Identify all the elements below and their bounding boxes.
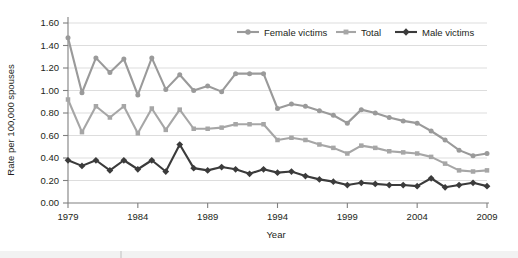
data-point <box>135 93 140 98</box>
data-point <box>80 130 85 135</box>
data-point <box>245 29 250 34</box>
data-point <box>191 88 196 93</box>
data-point <box>471 153 476 158</box>
data-point <box>121 57 126 62</box>
data-point <box>94 104 99 109</box>
legend-label: Total <box>361 27 381 38</box>
data-point <box>177 72 182 77</box>
data-point <box>122 104 127 109</box>
data-point <box>359 143 364 148</box>
footer-band-tick <box>120 251 122 258</box>
data-point <box>359 107 364 112</box>
data-point <box>79 90 84 95</box>
y-axis-tick-label: 0.00 <box>41 197 60 208</box>
data-point <box>457 148 462 153</box>
data-point <box>429 155 434 160</box>
y-axis-tick-label: 0.60 <box>41 130 60 141</box>
y-axis-tick-label: 0.80 <box>41 107 60 118</box>
data-point <box>164 128 169 133</box>
data-point <box>344 30 349 35</box>
data-point <box>443 138 448 143</box>
data-point <box>387 115 392 120</box>
line-chart: 0.000.200.400.600.801.001.201.401.60 197… <box>0 0 518 258</box>
data-point <box>177 107 182 112</box>
data-point <box>345 121 350 126</box>
data-point <box>275 138 280 143</box>
x-axis-tick-label: 1984 <box>127 211 148 222</box>
data-point <box>401 150 406 155</box>
data-point <box>317 108 322 113</box>
y-axis-tick-label: 0.40 <box>41 152 60 163</box>
data-point <box>429 129 434 134</box>
data-point <box>66 35 71 40</box>
data-point <box>471 169 476 174</box>
data-point <box>163 87 168 92</box>
y-axis-tick-label: 1.40 <box>41 40 60 51</box>
data-point <box>233 71 238 76</box>
data-point <box>219 125 224 130</box>
footer-band <box>0 251 518 258</box>
data-point <box>275 106 280 111</box>
y-axis-tick-label: 1.60 <box>41 17 60 28</box>
data-point <box>345 151 350 156</box>
data-point <box>373 146 378 151</box>
y-axis-tick-label: 0.20 <box>41 175 60 186</box>
data-point <box>261 71 266 76</box>
chart-figure: 0.000.200.400.600.801.001.201.401.60 197… <box>0 0 518 258</box>
data-point <box>108 115 113 120</box>
data-point <box>93 55 98 60</box>
data-point <box>136 131 141 136</box>
x-axis-title: Year <box>266 229 285 240</box>
data-point <box>373 111 378 116</box>
data-point <box>317 142 322 147</box>
data-point <box>401 118 406 123</box>
y-axis-tick-label: 1.00 <box>41 85 60 96</box>
x-axis-tick-label: 2009 <box>476 211 497 222</box>
data-point <box>415 121 420 126</box>
data-point <box>289 102 294 107</box>
y-axis-title: Rate per 100,000 spouses <box>5 64 16 176</box>
y-axis-tick-labels: 0.000.200.400.600.801.001.201.401.60 <box>41 17 60 208</box>
data-point <box>107 70 112 75</box>
data-point <box>149 55 154 60</box>
data-point <box>443 161 448 166</box>
data-point <box>233 122 238 127</box>
x-axis-tick-label: 1994 <box>267 211 288 222</box>
data-point <box>150 106 155 111</box>
data-point <box>205 127 210 132</box>
data-point <box>485 168 490 173</box>
data-point <box>219 89 224 94</box>
data-point <box>457 168 462 173</box>
data-point <box>247 71 252 76</box>
data-point <box>331 113 336 118</box>
legend-label: Female victims <box>264 27 328 38</box>
x-axis-tick-label: 2004 <box>407 211 428 222</box>
x-axis-tick-label: 1979 <box>57 211 78 222</box>
data-point <box>331 146 336 151</box>
data-point <box>66 97 71 102</box>
data-point <box>485 151 490 156</box>
data-point <box>247 122 252 127</box>
data-point <box>289 136 294 141</box>
legend-label: Male victims <box>422 27 475 38</box>
data-point <box>205 84 210 89</box>
x-axis-tick-label: 1999 <box>337 211 358 222</box>
y-axis-tick-label: 1.20 <box>41 62 60 73</box>
data-point <box>387 149 392 154</box>
x-axis-tick-label: 1989 <box>197 211 218 222</box>
data-point <box>415 151 420 156</box>
data-point <box>303 104 308 109</box>
data-point <box>303 138 308 143</box>
data-point <box>191 127 196 132</box>
data-point <box>261 122 266 127</box>
